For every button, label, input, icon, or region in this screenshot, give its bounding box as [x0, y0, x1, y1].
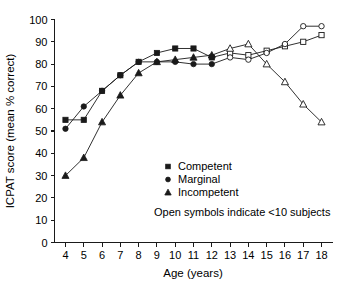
data-point-incompetent — [80, 154, 87, 161]
data-point-marginal — [319, 23, 324, 28]
series-layer — [62, 23, 325, 178]
y-tick-label: 40 — [35, 147, 47, 159]
data-point-marginal — [191, 61, 196, 66]
x-axis-ticks: 456789101112131415161718 — [62, 243, 327, 261]
y-tick-label: 100 — [29, 14, 47, 26]
legend-marker-incompetent — [165, 189, 171, 195]
data-point-competent — [301, 39, 306, 44]
x-tick-label: 12 — [206, 249, 218, 261]
data-point-marginal — [246, 57, 251, 62]
y-tick-label: 10 — [35, 214, 47, 226]
x-tick-label: 17 — [297, 249, 309, 261]
y-tick-label: 90 — [35, 36, 47, 48]
data-point-competent — [154, 50, 159, 55]
data-point-competent — [319, 33, 324, 38]
line-chart: 0102030405060708090100 45678910111213141… — [0, 0, 348, 292]
data-point-marginal — [264, 50, 269, 55]
y-axis-title: ICPAT score (mean % correct) — [4, 54, 16, 209]
data-point-competent — [191, 46, 196, 51]
legend-marker-competent — [166, 164, 171, 169]
x-tick-label: 18 — [315, 249, 327, 261]
legend-label-marginal: Marginal — [178, 173, 220, 185]
data-point-incompetent — [135, 69, 142, 76]
x-tick-label: 7 — [117, 249, 123, 261]
x-tick-label: 16 — [279, 249, 291, 261]
y-tick-label: 20 — [35, 192, 47, 204]
data-point-incompetent — [245, 40, 252, 47]
legend-label-competent: Competent — [178, 160, 232, 172]
x-tick-label: 6 — [99, 249, 105, 261]
x-tick-label: 11 — [188, 249, 199, 261]
x-tick-label: 15 — [261, 249, 273, 261]
data-point-marginal — [209, 61, 214, 66]
x-tick-label: 14 — [242, 249, 254, 261]
x-tick-label: 13 — [224, 249, 236, 261]
data-point-marginal — [63, 126, 68, 131]
legend-label-incompetent: Incompetent — [178, 186, 239, 198]
y-tick-label: 60 — [35, 103, 47, 115]
data-point-marginal — [301, 23, 306, 28]
x-tick-label: 9 — [154, 249, 160, 261]
data-point-competent — [173, 46, 178, 51]
x-axis-title: Age (years) — [163, 267, 223, 279]
data-point-marginal — [118, 73, 123, 78]
chart-figure: 0102030405060708090100 45678910111213141… — [0, 0, 348, 292]
data-point-competent — [81, 117, 86, 122]
y-tick-label: 80 — [35, 58, 47, 70]
data-point-marginal — [282, 41, 287, 46]
x-tick-label: 4 — [62, 249, 68, 261]
y-tick-label: 0 — [41, 237, 47, 249]
x-tick-label: 5 — [81, 249, 87, 261]
x-tick-label: 8 — [136, 249, 142, 261]
data-point-competent — [63, 117, 68, 122]
data-point-marginal — [99, 88, 104, 93]
x-tick-label: 10 — [169, 249, 181, 261]
data-point-incompetent — [99, 118, 106, 125]
chart-legend: CompetentMarginalIncompetentOpen symbols… — [154, 160, 331, 218]
y-tick-label: 50 — [35, 125, 47, 137]
data-point-marginal — [81, 104, 86, 109]
data-point-marginal — [136, 59, 141, 64]
y-tick-label: 30 — [35, 170, 47, 182]
y-tick-label: 70 — [35, 80, 47, 92]
y-axis-ticks: 0102030405060708090100 — [29, 14, 54, 249]
data-point-marginal — [227, 55, 232, 60]
legend-marker-marginal — [166, 177, 171, 182]
legend-note: Open symbols indicate <10 subjects — [154, 206, 331, 218]
